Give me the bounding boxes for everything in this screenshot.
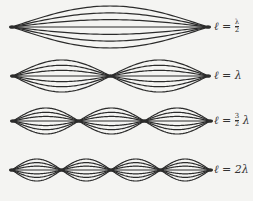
node-point bbox=[10, 119, 16, 123]
label-text: ℓ = bbox=[214, 20, 231, 33]
label-one-wavelength: ℓ = λ bbox=[214, 69, 242, 82]
label-half-wavelength: ℓ = λ2 bbox=[214, 19, 239, 34]
fraction: λ2 bbox=[235, 19, 239, 34]
wave-row-2 bbox=[10, 60, 211, 92]
node-point bbox=[108, 74, 114, 78]
label-suffix: λ bbox=[243, 114, 250, 127]
node-point bbox=[108, 168, 114, 172]
node-point bbox=[207, 168, 213, 172]
node-point bbox=[10, 74, 16, 78]
fraction-denominator: 2 bbox=[235, 121, 239, 128]
label-two-wavelength: ℓ = 2λ bbox=[214, 163, 249, 176]
node-point bbox=[205, 74, 211, 78]
fraction: 32 bbox=[235, 113, 239, 128]
wave-row-4 bbox=[9, 159, 213, 181]
node-point bbox=[76, 119, 82, 123]
label-text: ℓ = λ bbox=[214, 69, 242, 82]
node-point bbox=[205, 25, 211, 29]
wave-row-1 bbox=[9, 6, 211, 48]
fraction-denominator: 2 bbox=[235, 27, 239, 34]
label-three-half-wavelength: ℓ = 32 λ bbox=[214, 113, 250, 128]
node-point bbox=[141, 119, 147, 123]
node-point bbox=[158, 168, 164, 172]
node-point bbox=[9, 168, 15, 172]
node-point bbox=[9, 25, 15, 29]
label-text: ℓ = 2λ bbox=[214, 163, 249, 176]
wave-row-3 bbox=[10, 108, 213, 134]
label-text: ℓ = bbox=[214, 114, 231, 127]
node-point bbox=[59, 168, 65, 172]
node-point bbox=[207, 119, 213, 123]
